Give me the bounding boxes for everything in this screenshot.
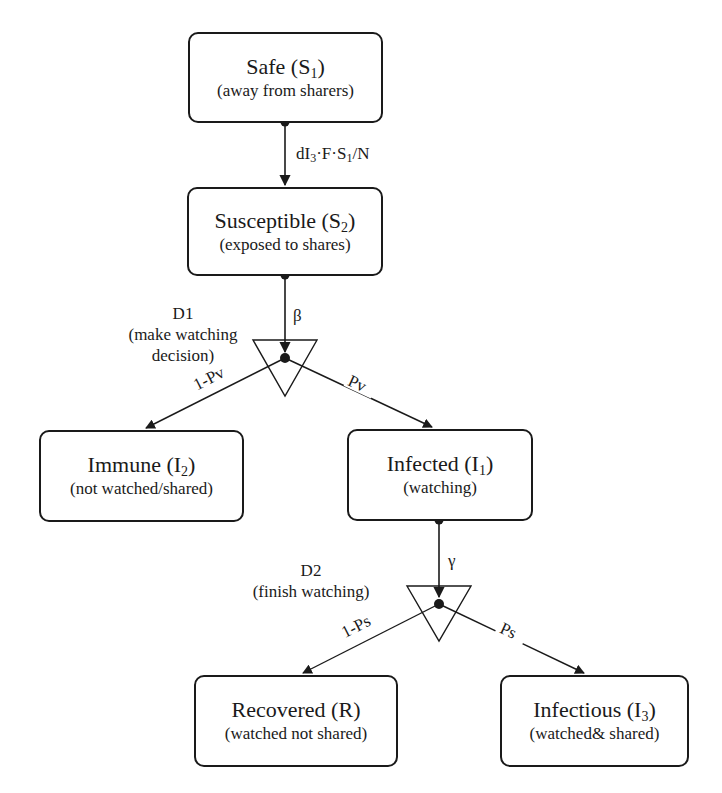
state-transition-diagram: Safe (S1) (away from sharers) Susceptibl… xyxy=(0,0,722,793)
edge-label-safe-to-susceptible: dI3·F·S1/N xyxy=(296,144,369,164)
decision-label-d1: D1 (make watching decision) xyxy=(118,303,248,366)
node-susceptible: Susceptible (S2) (exposed to shares) xyxy=(187,187,383,276)
decision-d1-id: D1 xyxy=(118,303,248,324)
decision-d2-id: D2 xyxy=(236,560,386,581)
node-immune-title: Immune (I2) xyxy=(88,452,196,478)
node-safe-description: (away from sharers) xyxy=(217,80,354,102)
node-immune: Immune (I2) (not watched/shared) xyxy=(39,430,244,522)
node-susceptible-description: (exposed to shares) xyxy=(219,234,350,256)
edge-label-gamma: γ xyxy=(448,551,456,571)
node-infectious-description: (watched& shared) xyxy=(530,723,660,745)
node-infectious-title: Infectious (I3) xyxy=(533,697,655,723)
node-infectious: Infectious (I3) (watched& shared) xyxy=(500,675,689,767)
node-infected-description: (watching) xyxy=(403,477,477,499)
decision-d2-desc: (finish watching) xyxy=(236,581,386,602)
node-recovered-description: (watched not shared) xyxy=(225,723,368,745)
node-immune-description: (not watched/shared) xyxy=(70,478,213,500)
edge-label-beta: β xyxy=(293,306,302,326)
node-safe-title: Safe (S1) xyxy=(246,54,325,80)
node-recovered: Recovered (R) (watched not shared) xyxy=(194,675,398,767)
node-susceptible-title: Susceptible (S2) xyxy=(215,208,356,234)
node-infected: Infected (I1) (watching) xyxy=(347,429,533,521)
node-infected-title: Infected (I1) xyxy=(387,451,494,477)
decision-label-d2: D2 (finish watching) xyxy=(236,560,386,602)
decision-d1-desc-line2: decision) xyxy=(118,345,248,366)
node-recovered-title: Recovered (R) xyxy=(232,697,361,723)
node-safe: Safe (S1) (away from sharers) xyxy=(188,32,383,123)
decision-d1-desc-line1: (make watching xyxy=(118,324,248,345)
